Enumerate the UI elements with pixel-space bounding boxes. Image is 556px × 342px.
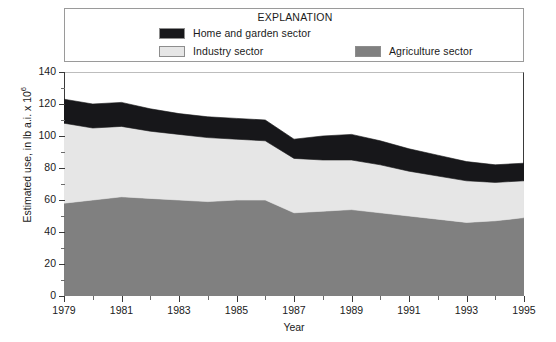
legend-label-home-and-garden: Home and garden sector	[193, 27, 311, 39]
y-tick-mark-20	[59, 264, 65, 265]
y-minor-tick-70	[61, 184, 65, 185]
x-tick-mark-1983	[179, 296, 180, 302]
y-axis-title: Estimated use, in lb a.i. x 106	[19, 43, 33, 267]
x-minor-tick-1986	[265, 296, 266, 300]
x-tick-mark-1989	[352, 296, 353, 302]
x-tick-label-1995: 1995	[501, 305, 547, 316]
y-tick-mark-120	[59, 104, 65, 105]
y-axis-title-exponent: 6	[19, 87, 28, 91]
y-minor-tick-50	[61, 216, 65, 217]
x-tick-mark-1993	[467, 296, 468, 302]
y-axis-title-text: Estimated use, in lb a.i. x 10	[21, 91, 33, 222]
x-axis-title: Year	[64, 321, 524, 333]
x-minor-tick-1988	[323, 296, 324, 300]
legend-swatch-light-icon	[159, 46, 185, 57]
y-tick-mark-60	[59, 200, 65, 201]
x-tick-label-1981: 1981	[99, 305, 145, 316]
y-tick-mark-140	[59, 72, 65, 73]
y-minor-tick-10	[61, 280, 65, 281]
legend-entry-agriculture: Agriculture sector	[355, 45, 473, 57]
legend-label-agriculture: Agriculture sector	[389, 45, 473, 57]
x-minor-tick-1984	[208, 296, 209, 300]
x-tick-mark-1987	[294, 296, 295, 302]
y-minor-tick-110	[61, 120, 65, 121]
y-tick-mark-80	[59, 168, 65, 169]
y-minor-tick-130	[61, 88, 65, 89]
x-tick-label-1979: 1979	[41, 305, 87, 316]
y-minor-tick-30	[61, 248, 65, 249]
x-minor-tick-1980	[93, 296, 94, 300]
x-tick-label-1993: 1993	[444, 305, 490, 316]
y-tick-mark-100	[59, 136, 65, 137]
x-minor-tick-1990	[380, 296, 381, 300]
legend: EXPLANATION Home and garden sector Indus…	[64, 8, 524, 62]
x-minor-tick-1982	[150, 296, 151, 300]
legend-swatch-mid-icon	[355, 46, 381, 57]
x-tick-mark-1985	[237, 296, 238, 302]
x-tick-label-1987: 1987	[271, 305, 317, 316]
stacked-area-chart	[64, 72, 524, 296]
x-tick-mark-1979	[64, 296, 65, 302]
y-minor-tick-90	[61, 152, 65, 153]
x-tick-label-1985: 1985	[214, 305, 260, 316]
x-minor-tick-1992	[438, 296, 439, 300]
y-tick-mark-40	[59, 232, 65, 233]
y-tick-label-0: 0	[14, 290, 56, 300]
x-tick-label-1983: 1983	[156, 305, 202, 316]
x-tick-mark-1995	[524, 296, 525, 302]
legend-entry-home-and-garden: Home and garden sector	[159, 27, 311, 39]
x-tick-label-1991: 1991	[386, 305, 432, 316]
legend-label-industry: Industry sector	[193, 45, 263, 57]
legend-entry-industry: Industry sector	[159, 45, 263, 57]
legend-title: EXPLANATION	[65, 11, 525, 23]
figure: EXPLANATION Home and garden sector Indus…	[0, 0, 556, 342]
x-minor-tick-1994	[495, 296, 496, 300]
x-tick-mark-1991	[409, 296, 410, 302]
legend-swatch-dark-icon	[159, 28, 185, 39]
x-tick-mark-1981	[122, 296, 123, 302]
x-tick-label-1989: 1989	[329, 305, 375, 316]
